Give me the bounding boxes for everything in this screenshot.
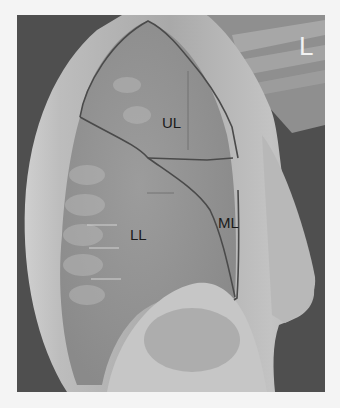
xray-drawing	[17, 15, 325, 392]
label-lower-lobe: LL	[130, 227, 147, 242]
chest-xray-image: L UL ML LL	[17, 15, 325, 392]
side-marker-left: L	[299, 33, 313, 59]
label-upper-lobe: UL	[162, 115, 181, 130]
label-middle-lobe: ML	[218, 215, 239, 230]
